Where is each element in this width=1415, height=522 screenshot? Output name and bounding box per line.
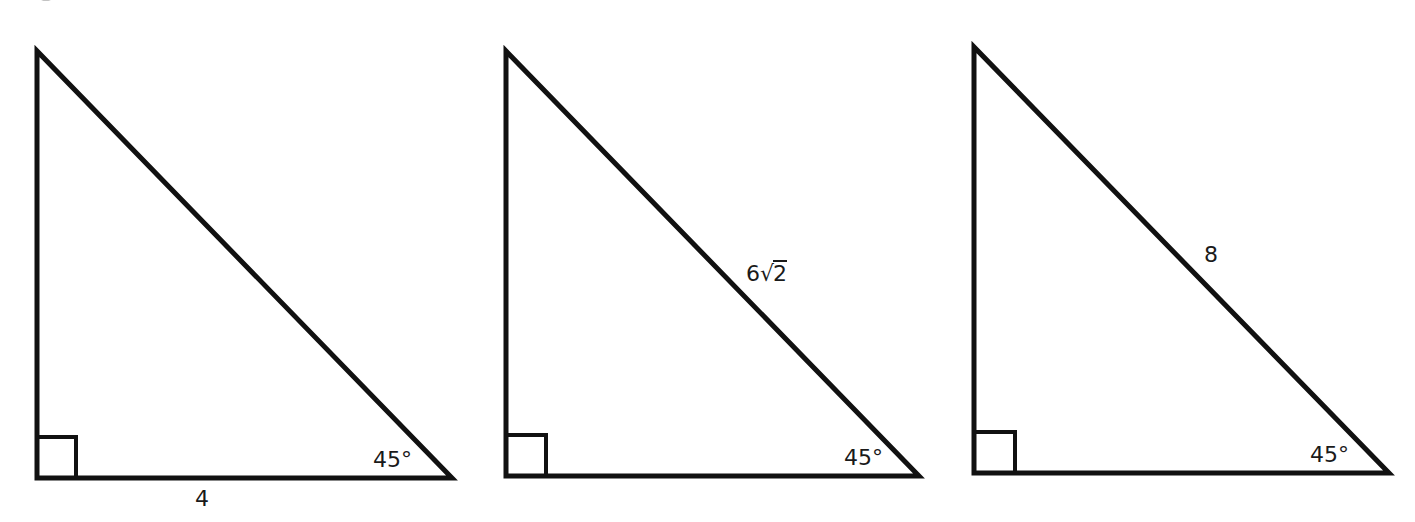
side-label-2-radicand: 2 — [773, 260, 787, 285]
side-label-2-coef: 6 — [746, 261, 760, 286]
sqrt-symbol: √ — [760, 261, 774, 286]
triangle-3 — [974, 47, 1389, 473]
side-label-3: 8 — [1204, 244, 1218, 266]
angle-label-1: 45° — [373, 449, 412, 471]
side-label-2: 6√2 — [746, 260, 787, 285]
angle-label-3: 45° — [1310, 444, 1349, 466]
angle-label-2: 45° — [844, 447, 883, 469]
side-label-1: 4 — [195, 488, 209, 510]
triangle-1 — [37, 51, 452, 478]
right-angle-marker — [37, 437, 76, 478]
triangle-2 — [506, 51, 919, 476]
right-angle-marker — [506, 435, 546, 476]
triangles-canvas — [0, 0, 1415, 522]
right-angle-marker — [974, 432, 1015, 473]
